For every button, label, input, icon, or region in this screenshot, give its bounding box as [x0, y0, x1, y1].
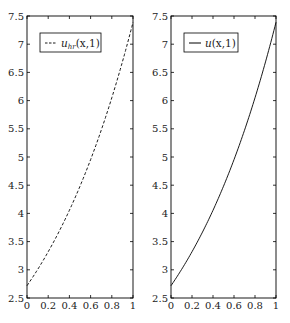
y-tick-label: 7 — [162, 39, 168, 50]
right-legend: u(x,1) — [184, 33, 238, 52]
y-tick-label: 2.5 — [152, 293, 168, 304]
x-tick-label: 0 — [168, 300, 174, 311]
y-tick-label: 7 — [18, 39, 24, 50]
x-tick-label: 0.6 — [83, 300, 99, 311]
left-curve-u-hr — [27, 22, 133, 285]
plot-left: 2.533.544.555.566.577.5 00.20.40.60.81 u… — [8, 11, 136, 312]
y-tick-label: 3 — [18, 264, 24, 275]
y-tick-label: 4 — [162, 208, 168, 219]
x-tick-label: 0.4 — [205, 300, 221, 311]
left-y-tick-labels: 2.533.544.555.566.577.5 — [8, 11, 24, 304]
y-tick-label: 6 — [18, 95, 24, 106]
right-legend-label: u(x,1) — [205, 37, 236, 49]
y-tick-label: 5.5 — [152, 123, 168, 134]
y-tick-label: 6 — [162, 95, 168, 106]
y-tick-label: 3.5 — [152, 236, 168, 247]
x-tick-label: 0.8 — [247, 300, 263, 311]
y-tick-label: 3 — [162, 264, 168, 275]
x-tick-label: 1 — [273, 300, 279, 311]
y-tick-label: 5 — [162, 152, 168, 163]
figure: 2.533.544.555.566.577.5 00.20.40.60.81 u… — [0, 0, 290, 323]
right-axes-frame — [171, 16, 276, 298]
y-tick-label: 4 — [18, 208, 24, 219]
y-tick-label: 6.5 — [152, 67, 168, 78]
right-x-tick-labels: 00.20.40.60.81 — [168, 300, 279, 311]
y-tick-label: 5.5 — [8, 123, 24, 134]
x-tick-label: 0 — [24, 300, 30, 311]
y-tick-label: 4.5 — [8, 180, 24, 191]
axes-box — [27, 16, 133, 298]
axes-box — [171, 16, 276, 298]
y-tick-label: 2.5 — [8, 293, 24, 304]
y-tick-label: 4.5 — [152, 180, 168, 191]
left-legend: uhr(x,1) — [40, 33, 101, 52]
left-axes-frame — [27, 16, 133, 298]
x-tick-label: 0.2 — [40, 300, 56, 311]
y-tick-label: 5 — [18, 152, 24, 163]
y-tick-label: 3.5 — [8, 236, 24, 247]
x-tick-label: 0.2 — [184, 300, 200, 311]
x-tick-label: 0.4 — [61, 300, 77, 311]
right-curve-u — [171, 22, 276, 285]
y-tick-label: 7.5 — [152, 11, 168, 22]
x-tick-label: 0.6 — [226, 300, 242, 311]
x-tick-label: 1 — [130, 300, 136, 311]
left-legend-label: uhr(x,1) — [61, 37, 100, 51]
y-tick-label: 6.5 — [8, 67, 24, 78]
plot-right: 2.533.544.555.566.577.5 00.20.40.60.81 u… — [152, 11, 279, 312]
right-y-tick-labels: 2.533.544.555.566.577.5 — [152, 11, 168, 304]
left-x-tick-labels: 00.20.40.60.81 — [24, 300, 136, 311]
x-tick-label: 0.8 — [104, 300, 120, 311]
y-tick-label: 7.5 — [8, 11, 24, 22]
figure-canvas: 2.533.544.555.566.577.5 00.20.40.60.81 u… — [0, 0, 290, 323]
